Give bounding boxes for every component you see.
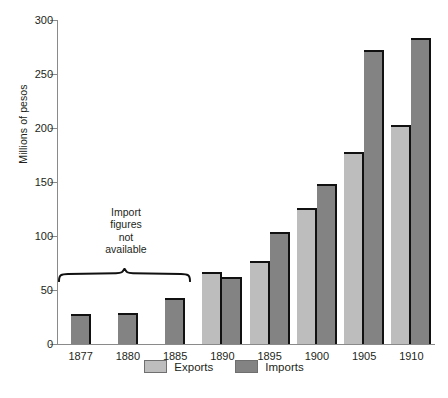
bar-exports (391, 125, 411, 344)
bar-imports (222, 277, 242, 344)
annotation-line-1: Import (72, 206, 180, 218)
legend-item-exports: Exports (144, 360, 213, 373)
y-tick-label: 0 (47, 338, 53, 350)
y-tick-label: 150 (35, 176, 53, 188)
bar-imports (270, 232, 290, 344)
y-tick-label: 250 (35, 68, 53, 80)
bar-group (202, 20, 242, 344)
y-axis-line (57, 20, 58, 344)
bar-group (297, 20, 337, 344)
bar-group (344, 20, 384, 344)
y-axis-title: Millions of pesos (17, 49, 29, 199)
bar-imports (317, 184, 337, 344)
bar-imports (364, 50, 384, 344)
legend-swatch-exports (144, 360, 167, 373)
chart-legend: Exports Imports (0, 360, 448, 373)
bar-exports (250, 261, 270, 344)
legend-item-imports: Imports (235, 360, 303, 373)
bar-group (391, 20, 431, 344)
y-tick-label: 200 (35, 122, 53, 134)
bar-exports (344, 152, 364, 344)
annotation-line-4: available (72, 243, 180, 255)
cropped-caption-sliver (6, 393, 306, 398)
legend-swatch-imports (235, 360, 258, 373)
plot-area: 050100150200250300 187718801885189018951… (57, 20, 435, 344)
bar-imports (165, 298, 185, 344)
bar-exports (202, 272, 222, 344)
y-tick-label: 300 (35, 14, 53, 26)
annotation-import-figures-not-available: Import figures not available (72, 206, 180, 256)
curly-brace-icon (58, 268, 191, 282)
annotation-line-2: figures (72, 218, 180, 230)
x-axis-line (57, 344, 435, 345)
bar-group (118, 20, 138, 344)
bar-chart: Millions of pesos 050100150200250300 187… (0, 0, 448, 398)
bar-group (71, 20, 91, 344)
bar-imports (118, 313, 138, 344)
bar-imports (411, 38, 431, 344)
bar-imports (71, 314, 91, 344)
y-tick-label: 50 (41, 284, 53, 296)
legend-label-exports: Exports (174, 361, 213, 373)
bar-exports (297, 208, 317, 344)
bar-group (165, 20, 185, 344)
y-tick-label: 100 (35, 230, 53, 242)
legend-label-imports: Imports (265, 361, 303, 373)
bar-group (250, 20, 290, 344)
annotation-line-3: not (72, 231, 180, 243)
